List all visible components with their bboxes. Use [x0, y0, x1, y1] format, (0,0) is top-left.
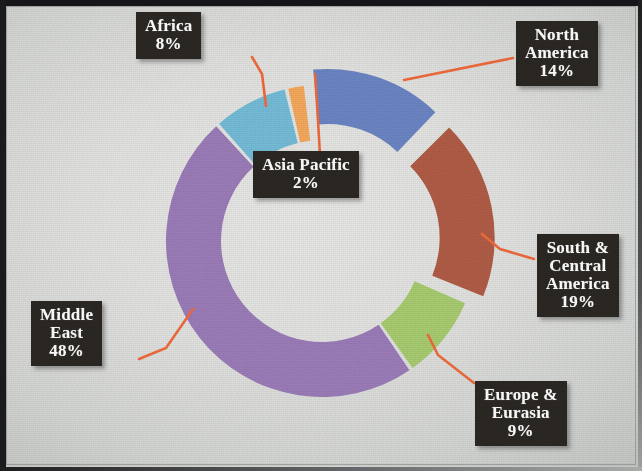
leader-line-middle-east: [139, 309, 193, 359]
label-africa: Africa 8%: [136, 12, 201, 59]
frame-edge-right: [638, 0, 642, 471]
frame-edge-left: [0, 0, 6, 471]
label-europe-eurasia: Europe & Eurasia 9%: [475, 381, 567, 446]
donut-slice-south-central-america: [410, 128, 494, 297]
chart-image: Africa 8% North America 14% Asia Pacific…: [0, 0, 642, 471]
label-south-central-america: South & Central America 19%: [537, 234, 619, 317]
donut-slice-north-america: [313, 69, 435, 152]
donut-slice-group: [166, 69, 495, 397]
frame-edge-top: [0, 0, 642, 6]
label-north-america: North America 14%: [516, 21, 598, 86]
label-middle-east: Middle East 48%: [31, 301, 102, 366]
leader-line-north-america: [404, 58, 513, 80]
frame-edge-bottom: [0, 467, 642, 471]
label-asia-pacific: Asia Pacific 2%: [253, 151, 359, 198]
